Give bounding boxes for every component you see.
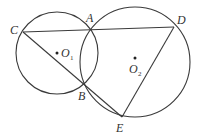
label-e: E	[115, 121, 124, 135]
label-o2: O	[129, 62, 138, 76]
label-o2-subscript: 2	[138, 70, 142, 78]
label-o1: O	[61, 46, 70, 60]
geometry-diagram: A B C D E O 1 O 2	[0, 0, 199, 139]
segment-ce	[23, 32, 122, 117]
label-b: B	[78, 89, 86, 103]
label-a: A	[85, 11, 94, 25]
label-o1-subscript: 1	[70, 54, 74, 62]
center-dot-o1	[56, 52, 59, 55]
label-d: D	[176, 13, 186, 27]
segment-cd	[23, 27, 174, 32]
label-c: C	[10, 23, 19, 37]
center-dot-o2	[134, 57, 137, 60]
